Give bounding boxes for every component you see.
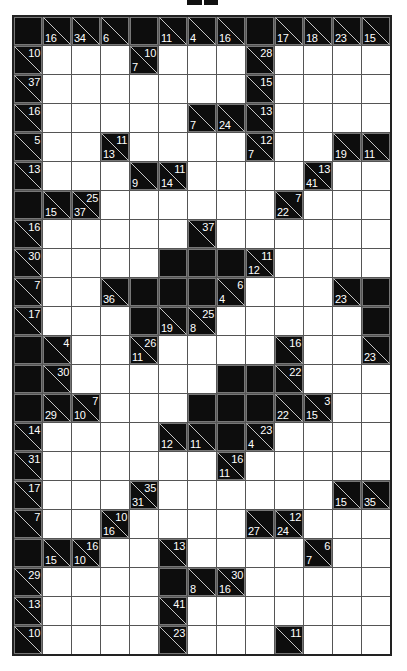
- entry-cell[interactable]: [362, 394, 390, 422]
- entry-cell[interactable]: [333, 191, 361, 219]
- entry-cell[interactable]: [188, 539, 216, 567]
- entry-cell[interactable]: [159, 133, 187, 161]
- entry-cell[interactable]: [188, 46, 216, 74]
- entry-cell[interactable]: [188, 336, 216, 364]
- entry-cell[interactable]: [130, 104, 158, 132]
- entry-cell[interactable]: [43, 423, 71, 451]
- entry-cell[interactable]: [362, 568, 390, 596]
- entry-cell[interactable]: [333, 220, 361, 248]
- entry-cell[interactable]: [72, 46, 100, 74]
- entry-cell[interactable]: [304, 452, 332, 480]
- entry-cell[interactable]: [275, 307, 303, 335]
- entry-cell[interactable]: [130, 249, 158, 277]
- entry-cell[interactable]: [362, 510, 390, 538]
- entry-cell[interactable]: [333, 510, 361, 538]
- entry-cell[interactable]: [275, 133, 303, 161]
- entry-cell[interactable]: [246, 597, 274, 625]
- entry-cell[interactable]: [217, 162, 245, 190]
- entry-cell[interactable]: [72, 336, 100, 364]
- entry-cell[interactable]: [130, 568, 158, 596]
- entry-cell[interactable]: [275, 46, 303, 74]
- entry-cell[interactable]: [217, 336, 245, 364]
- entry-cell[interactable]: [246, 220, 274, 248]
- entry-cell[interactable]: [246, 481, 274, 509]
- entry-cell[interactable]: [246, 191, 274, 219]
- entry-cell[interactable]: [333, 452, 361, 480]
- entry-cell[interactable]: [188, 481, 216, 509]
- entry-cell[interactable]: [159, 104, 187, 132]
- entry-cell[interactable]: [101, 365, 129, 393]
- entry-cell[interactable]: [304, 597, 332, 625]
- entry-cell[interactable]: [333, 394, 361, 422]
- entry-cell[interactable]: [362, 104, 390, 132]
- entry-cell[interactable]: [217, 597, 245, 625]
- entry-cell[interactable]: [304, 423, 332, 451]
- entry-cell[interactable]: [159, 481, 187, 509]
- entry-cell[interactable]: [275, 452, 303, 480]
- entry-cell[interactable]: [333, 307, 361, 335]
- entry-cell[interactable]: [159, 452, 187, 480]
- entry-cell[interactable]: [333, 626, 361, 654]
- entry-cell[interactable]: [72, 278, 100, 306]
- entry-cell[interactable]: [130, 365, 158, 393]
- entry-cell[interactable]: [333, 568, 361, 596]
- entry-cell[interactable]: [304, 46, 332, 74]
- entry-cell[interactable]: [101, 220, 129, 248]
- entry-cell[interactable]: [362, 46, 390, 74]
- entry-cell[interactable]: [304, 75, 332, 103]
- entry-cell[interactable]: [217, 510, 245, 538]
- entry-cell[interactable]: [188, 133, 216, 161]
- entry-cell[interactable]: [130, 539, 158, 567]
- entry-cell[interactable]: [188, 597, 216, 625]
- entry-cell[interactable]: [333, 249, 361, 277]
- entry-cell[interactable]: [72, 104, 100, 132]
- entry-cell[interactable]: [333, 46, 361, 74]
- entry-cell[interactable]: [72, 481, 100, 509]
- entry-cell[interactable]: [72, 568, 100, 596]
- entry-cell[interactable]: [43, 568, 71, 596]
- entry-cell[interactable]: [304, 626, 332, 654]
- entry-cell[interactable]: [101, 539, 129, 567]
- entry-cell[interactable]: [130, 452, 158, 480]
- entry-cell[interactable]: [130, 394, 158, 422]
- entry-cell[interactable]: [217, 307, 245, 335]
- entry-cell[interactable]: [304, 336, 332, 364]
- entry-cell[interactable]: [362, 597, 390, 625]
- entry-cell[interactable]: [101, 249, 129, 277]
- entry-cell[interactable]: [362, 191, 390, 219]
- entry-cell[interactable]: [304, 191, 332, 219]
- entry-cell[interactable]: [130, 597, 158, 625]
- entry-cell[interactable]: [275, 423, 303, 451]
- entry-cell[interactable]: [188, 626, 216, 654]
- entry-cell[interactable]: [72, 365, 100, 393]
- entry-cell[interactable]: [362, 423, 390, 451]
- entry-cell[interactable]: [246, 568, 274, 596]
- entry-cell[interactable]: [275, 597, 303, 625]
- entry-cell[interactable]: [159, 220, 187, 248]
- entry-cell[interactable]: [72, 220, 100, 248]
- entry-cell[interactable]: [159, 365, 187, 393]
- entry-cell[interactable]: [101, 568, 129, 596]
- entry-cell[interactable]: [275, 278, 303, 306]
- entry-cell[interactable]: [159, 394, 187, 422]
- entry-cell[interactable]: [72, 626, 100, 654]
- entry-cell[interactable]: [246, 278, 274, 306]
- entry-cell[interactable]: [333, 423, 361, 451]
- entry-cell[interactable]: [217, 191, 245, 219]
- entry-cell[interactable]: [159, 46, 187, 74]
- entry-cell[interactable]: [101, 597, 129, 625]
- entry-cell[interactable]: [101, 626, 129, 654]
- entry-cell[interactable]: [217, 46, 245, 74]
- entry-cell[interactable]: [362, 249, 390, 277]
- entry-cell[interactable]: [246, 452, 274, 480]
- entry-cell[interactable]: [101, 336, 129, 364]
- entry-cell[interactable]: [43, 626, 71, 654]
- entry-cell[interactable]: [130, 133, 158, 161]
- entry-cell[interactable]: [43, 278, 71, 306]
- entry-cell[interactable]: [188, 365, 216, 393]
- entry-cell[interactable]: [333, 597, 361, 625]
- entry-cell[interactable]: [188, 452, 216, 480]
- entry-cell[interactable]: [130, 626, 158, 654]
- entry-cell[interactable]: [362, 452, 390, 480]
- entry-cell[interactable]: [159, 191, 187, 219]
